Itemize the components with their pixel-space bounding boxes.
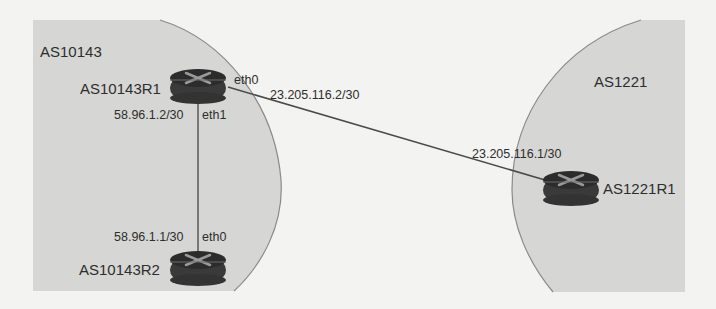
region-label-as1221: AS1221	[594, 74, 647, 89]
iface-label-r2-eth0: eth0	[202, 231, 226, 244]
region-as10143	[33, 20, 281, 291]
ip-label-r1-eth0: 23.205.116.2/30	[270, 89, 359, 102]
region-label-as10143: AS10143	[40, 44, 102, 59]
iface-label-r1-eth1: eth1	[202, 109, 226, 122]
ip-label-r3: 23.205.116.1/30	[472, 148, 561, 161]
ip-label-r2-eth0: 58.96.1.1/30	[114, 231, 184, 244]
router-name-as10143r1: AS10143R1	[80, 81, 161, 96]
router-icon[interactable]	[170, 251, 226, 286]
router-icon[interactable]	[170, 69, 226, 104]
ip-label-r1-eth1: 58.96.1.2/30	[114, 109, 184, 122]
router-name-as10143r2: AS10143R2	[79, 262, 160, 277]
router-icon[interactable]	[543, 171, 599, 206]
iface-label-r1-eth0: eth0	[234, 74, 258, 87]
router-name-as1221r1: AS1221R1	[603, 181, 676, 196]
